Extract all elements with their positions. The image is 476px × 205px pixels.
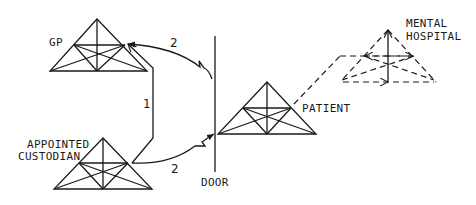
gp-label: GP	[49, 36, 63, 49]
edge-label-2b: 2	[171, 162, 179, 176]
custodian-label-line2: CUSTODIAN	[18, 150, 80, 163]
custodian-node: APPOINTED CUSTODIAN	[18, 138, 152, 189]
projection-line	[294, 56, 340, 104]
edge-custodian-to-gp: 1	[128, 44, 153, 163]
edge-custodian-to-door: 2	[132, 134, 214, 176]
door: DOOR	[201, 36, 229, 189]
patient-label: PATIENT	[302, 102, 351, 115]
patient-node: PATIENT	[218, 82, 351, 134]
edge-label-1: 1	[143, 97, 151, 111]
edge-door-to-gp: 2	[128, 36, 212, 79]
hospital-node: MENTAL HOSPITAL	[340, 17, 461, 82]
gp-node: GP	[49, 19, 147, 71]
diagram-canvas: GP APPOINTED CUSTODIAN DOOR 1 2 2	[0, 0, 476, 205]
door-label: DOOR	[201, 176, 229, 189]
edge-label-2a: 2	[170, 36, 178, 50]
hospital-label-line2: HOSPITAL	[406, 30, 461, 43]
gp-pyramid-icon	[50, 19, 147, 71]
hospital-label-line1: MENTAL	[406, 17, 448, 30]
